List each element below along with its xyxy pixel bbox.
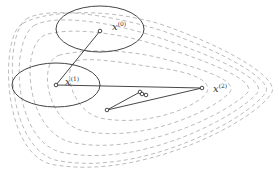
step-x1-x2: [56, 85, 202, 88]
point-p5: [140, 92, 144, 96]
label-x0: x(0): [112, 20, 126, 32]
iterate-path: [56, 31, 202, 110]
point-p3: [105, 108, 109, 112]
point-p6: [144, 93, 148, 97]
contour-1: [70, 60, 208, 121]
optimization-diagram: x(0) x(1) x(2): [0, 0, 279, 179]
step-p3-p4: [107, 92, 140, 110]
point-x2: [200, 86, 204, 90]
step-x2-p3: [107, 88, 202, 110]
contour-5: [12, 13, 266, 164]
point-x0: [98, 29, 102, 33]
label-x2: x(2): [213, 82, 227, 94]
point-x1: [54, 83, 58, 87]
